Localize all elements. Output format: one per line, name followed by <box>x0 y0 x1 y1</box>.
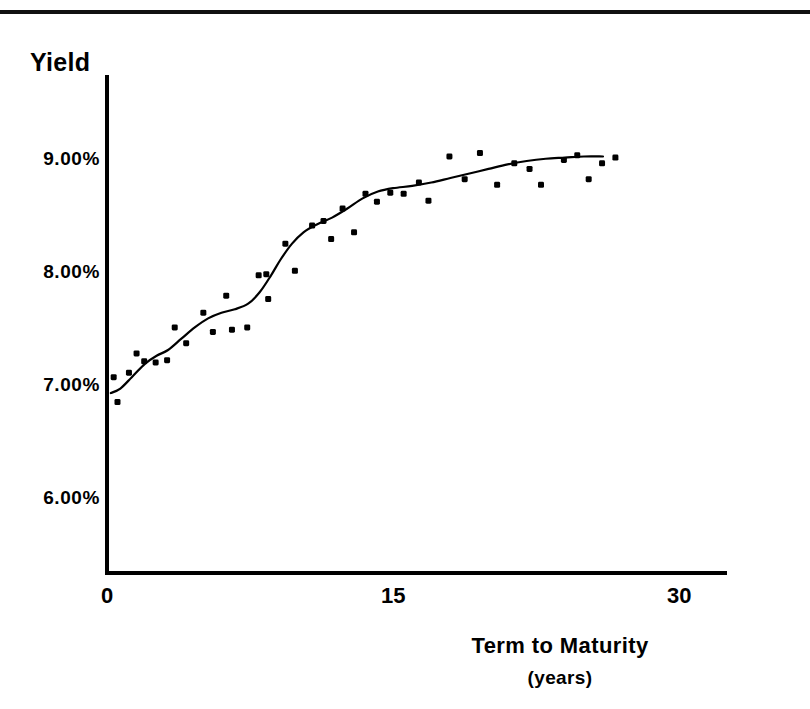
fitted-curve-group <box>111 156 603 393</box>
scatter-point <box>446 153 452 159</box>
scatter-point <box>416 180 422 186</box>
scatter-point <box>244 324 250 330</box>
scatter-point <box>111 374 117 380</box>
scatter-point <box>362 191 368 197</box>
x-axis-title-units: (years) <box>360 662 760 694</box>
scatter-point <box>134 350 140 356</box>
x-axis-title-main: Term to Maturity <box>471 633 648 658</box>
scatter-point <box>351 229 357 235</box>
scatter-point <box>599 160 605 166</box>
scatter-point <box>340 206 346 212</box>
scatter-point <box>586 176 592 182</box>
scatter-point <box>527 166 533 172</box>
scatter-point <box>141 358 147 364</box>
scatter-point <box>328 236 334 242</box>
scatter-point <box>256 272 262 278</box>
scatter-point <box>263 271 269 277</box>
scatter-point <box>462 176 468 182</box>
yield-curve-figure: Yield 6.00%7.00%8.00%9.00% 01530 Term to… <box>0 0 810 709</box>
scatter-point <box>223 293 229 299</box>
scatter-point <box>114 399 120 405</box>
scatter-point <box>612 155 618 161</box>
scatter-point <box>200 310 206 316</box>
x-tick-label: 30 <box>634 583 724 609</box>
scatter-point <box>126 370 132 376</box>
scatter-point <box>164 357 170 363</box>
scatter-point <box>387 190 393 196</box>
scatter-points-group <box>111 150 619 405</box>
scatter-point <box>321 218 327 224</box>
scatter-point <box>265 296 271 302</box>
scatter-point <box>210 329 216 335</box>
scatter-point <box>538 182 544 188</box>
scatter-point <box>574 152 580 158</box>
x-axis-title: Term to Maturity (years) <box>360 630 760 694</box>
x-tick-label: 15 <box>348 583 438 609</box>
scatter-point <box>282 241 288 247</box>
scatter-point <box>477 150 483 156</box>
scatter-point <box>153 359 159 365</box>
fitted-curve-path <box>111 156 603 393</box>
scatter-point <box>172 324 178 330</box>
scatter-point <box>229 327 235 333</box>
scatter-point <box>309 223 315 229</box>
scatter-point <box>561 157 567 163</box>
scatter-point <box>401 191 407 197</box>
x-tick-label: 0 <box>62 583 152 609</box>
scatter-point <box>292 268 298 274</box>
scatter-point <box>425 198 431 204</box>
scatter-point <box>374 199 380 205</box>
scatter-point <box>511 160 517 166</box>
scatter-point <box>494 182 500 188</box>
scatter-point <box>183 340 189 346</box>
